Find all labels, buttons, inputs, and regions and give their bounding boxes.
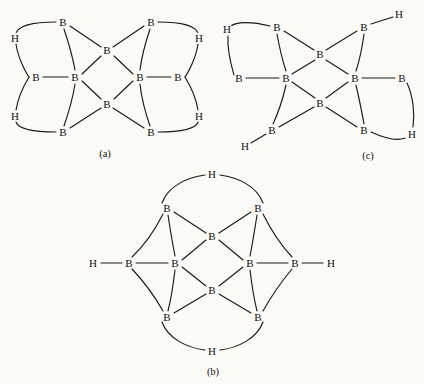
atom-label: B <box>163 202 170 214</box>
atom-a-h3: H <box>10 110 21 122</box>
atom-b-b9: B <box>162 311 173 323</box>
atom-b-b5: B <box>170 257 181 269</box>
atom-a-b6: B <box>135 71 146 83</box>
atom-c-b1: B <box>272 21 283 33</box>
atom-b-h1: H <box>207 168 218 180</box>
atom-c-h1: H <box>222 23 233 35</box>
arc-a-h1-bottom <box>16 44 29 77</box>
atom-b-h2: H <box>207 345 218 357</box>
bond-b-b6-b8 <box>219 267 243 286</box>
atom-label: B <box>208 230 215 242</box>
atom-label: B <box>254 311 261 323</box>
atom-label: B <box>351 72 358 84</box>
bond-b-b5-b8 <box>182 267 206 286</box>
atom-a-h2: H <box>194 32 205 44</box>
bond-a-b9-b8 <box>70 108 101 128</box>
bond-a-b1-b3 <box>70 26 101 47</box>
bond-a-b2-b3 <box>113 26 144 47</box>
bond-b-b1-b3 <box>174 212 206 233</box>
bond-c-b5-b8 <box>292 82 315 98</box>
atom-b-b4: B <box>124 257 135 269</box>
atom-c-h2: H <box>394 8 405 20</box>
arc-a-h2-top <box>158 22 198 33</box>
atom-label: H <box>208 345 216 357</box>
bond-b-b9-b8 <box>174 294 206 313</box>
atom-label: B <box>208 284 215 296</box>
atom-c-h3: H <box>240 140 251 152</box>
atom-b-h4: H <box>326 257 337 269</box>
atom-label: B <box>147 126 154 138</box>
arc-b-h2-right <box>220 322 263 350</box>
bond-c-b6-b8 <box>326 82 348 98</box>
arc-c-h4-bottom <box>371 132 405 139</box>
atom-label: B <box>71 71 78 83</box>
bond-a-b1-b5 <box>64 29 75 70</box>
atom-label: B <box>254 202 261 214</box>
arc-b-h1-left <box>162 175 205 203</box>
atom-b-b2: B <box>253 202 264 214</box>
bond-a-b6-b10 <box>140 84 150 126</box>
atom-label: H <box>241 140 249 152</box>
atom-c-b4: B <box>234 72 245 84</box>
bond-c-b9-b8 <box>279 107 314 127</box>
bond-b-b4-b1 <box>132 214 163 257</box>
bond-a-b5-b3 <box>82 56 101 74</box>
bond-b-b5-b9 <box>168 270 175 311</box>
arc-c-h1-bottom <box>228 36 234 75</box>
atom-label: H <box>208 168 216 180</box>
caption-a: (a) <box>99 148 111 160</box>
atom-c-b7: B <box>397 72 408 84</box>
bond-a-b5-b8 <box>82 81 101 99</box>
atom-a-h1: H <box>10 32 21 44</box>
bond-b-b6-b3 <box>219 240 243 260</box>
atom-label: H <box>395 8 403 20</box>
atom-label: B <box>125 257 132 269</box>
arc-c-h1-top <box>231 23 270 26</box>
arc-a-h4-top <box>185 77 198 110</box>
atom-c-b2: B <box>359 21 370 33</box>
atom-label: H <box>195 32 203 44</box>
atom-label: H <box>408 128 416 140</box>
bond-c-b2-b6 <box>356 34 364 71</box>
atom-label: H <box>89 257 97 269</box>
bond-a-b6-b3 <box>114 56 133 74</box>
atom-label: H <box>11 32 19 44</box>
atom-c-b9: B <box>267 124 278 136</box>
atom-label: B <box>360 124 367 136</box>
arc-a-h2-bottom <box>185 44 198 77</box>
caption-b: (b) <box>207 366 220 378</box>
atom-label: H <box>327 257 335 269</box>
atom-label: B <box>316 97 323 109</box>
atom-label: B <box>103 98 110 110</box>
bond-c-b2-h2 <box>371 17 393 24</box>
atom-label: H <box>195 110 203 122</box>
bond-b-b10-b8 <box>219 294 251 313</box>
atom-label: B <box>103 44 110 56</box>
arc-b-h1-right <box>220 175 263 203</box>
atom-label: B <box>235 72 242 84</box>
bond-b-b5-b3 <box>182 240 206 260</box>
bond-c-b2-b3 <box>326 31 357 50</box>
atom-label: H <box>223 23 231 35</box>
atom-c-b8: B <box>315 97 326 109</box>
arc-a-h1-top <box>16 22 56 33</box>
atom-c-b10: B <box>359 124 370 136</box>
atom-a-b5: B <box>70 71 81 83</box>
bond-a-b6-b8 <box>114 81 133 99</box>
atom-c-h4: H <box>407 128 418 140</box>
atom-label: B <box>268 124 275 136</box>
bond-b-b2-b6 <box>250 215 257 256</box>
atom-a-b8: B <box>102 98 113 110</box>
atom-label: B <box>174 71 181 83</box>
structure-c: B B B B B B B <box>222 8 418 152</box>
atom-a-b7: B <box>173 71 184 83</box>
atom-label: B <box>171 257 178 269</box>
bond-c-b9-h3 <box>251 134 266 143</box>
atom-label: B <box>147 16 154 28</box>
arc-a-h3-bottom <box>16 122 56 132</box>
atom-label: B <box>163 311 170 323</box>
atom-label: B <box>246 257 253 269</box>
atom-b-b1: B <box>162 202 173 214</box>
atom-label: B <box>398 72 405 84</box>
bond-c-b6-b3 <box>326 60 348 74</box>
